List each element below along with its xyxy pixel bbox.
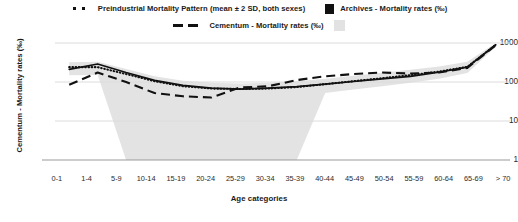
x-tick-label: > 70 bbox=[488, 174, 518, 188]
black-square-swatch-icon bbox=[325, 4, 334, 14]
y-axis-title: Cementum - Mortality rates (‰) bbox=[15, 31, 24, 161]
confidence-band-area bbox=[69, 43, 496, 160]
x-tick-label: 1-4 bbox=[72, 174, 102, 188]
chart-legend: Preindustrial Mortality Pattern (mean ± … bbox=[0, 0, 518, 34]
x-tick-label: 0-1 bbox=[42, 174, 72, 188]
legend-row-1: Preindustrial Mortality Pattern (mean ± … bbox=[0, 0, 518, 17]
chart-area: Cementum - Mortality rates (‰) 1000 100 … bbox=[0, 34, 518, 222]
x-tick-label: 45-49 bbox=[340, 174, 370, 188]
x-tick-label: 35-39 bbox=[280, 174, 310, 188]
grey-band-swatch-icon bbox=[334, 20, 345, 31]
legend-label-cementum: Cementum - Mortality rates (‰) bbox=[209, 17, 323, 34]
x-tick-label: 40-44 bbox=[310, 174, 340, 188]
legend-row-2: Cementum - Mortality rates (‰) bbox=[0, 17, 518, 34]
confidence-band-group bbox=[69, 43, 496, 160]
x-tick-label: 5-9 bbox=[102, 174, 132, 188]
x-tick-label: 50-54 bbox=[369, 174, 399, 188]
plot-svg bbox=[55, 34, 510, 163]
legend-item-preindustrial: Preindustrial Mortality Pattern (mean ± … bbox=[71, 0, 305, 17]
legend-item-cementum: Cementum - Mortality rates (‰) bbox=[173, 17, 323, 34]
x-tick-label: 20-24 bbox=[191, 174, 221, 188]
dashed-line-swatch-icon bbox=[173, 21, 203, 30]
x-tick-label: 15-19 bbox=[161, 174, 191, 188]
x-tick-label: 55-59 bbox=[399, 174, 429, 188]
dotted-line-swatch-icon bbox=[71, 4, 93, 13]
legend-item-archives: Archives - Mortality rates (‰) bbox=[325, 0, 447, 17]
x-tick-label: 30-34 bbox=[250, 174, 280, 188]
legend-label-archives: Archives - Mortality rates (‰) bbox=[340, 0, 447, 17]
legend-label-preindustrial: Preindustrial Mortality Pattern (mean ± … bbox=[98, 0, 305, 17]
x-axis-title: Age categories bbox=[0, 194, 518, 203]
x-tick-label: 25-29 bbox=[221, 174, 251, 188]
x-tick-label: 60-64 bbox=[429, 174, 459, 188]
x-tick-label: 10-14 bbox=[131, 174, 161, 188]
plot-canvas bbox=[55, 34, 510, 163]
x-axis-tick-labels: 0-11-45-910-1415-1920-2425-2930-3435-394… bbox=[42, 174, 518, 188]
x-tick-label: 65-69 bbox=[459, 174, 489, 188]
